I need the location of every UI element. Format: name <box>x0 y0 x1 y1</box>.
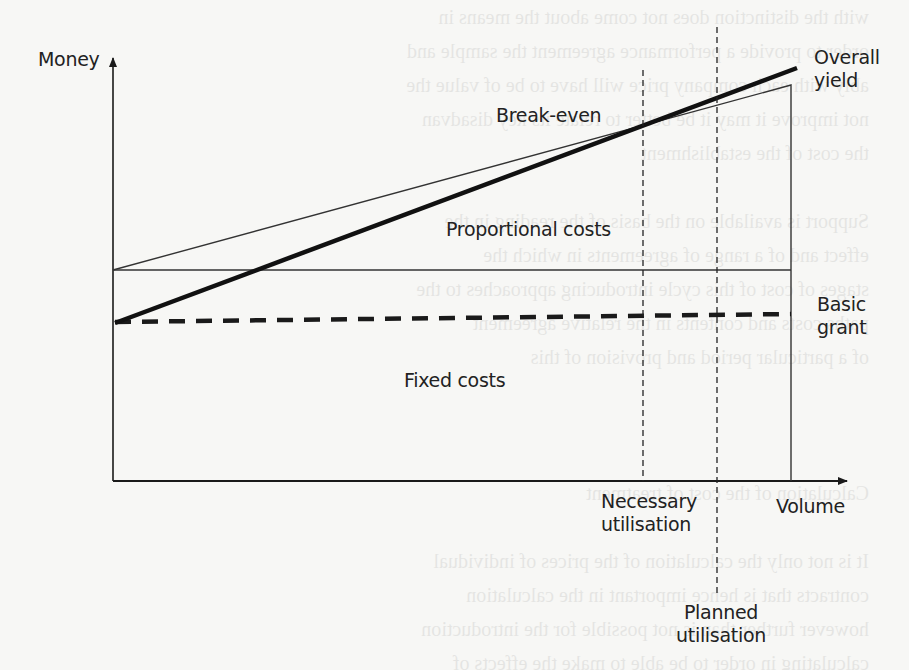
break-even-diagram <box>0 0 909 670</box>
overall-yield-line <box>115 68 797 323</box>
proportional-costs-label: Proportional costs <box>446 218 611 241</box>
necessary-utilisation-label-line2: utilisation <box>601 513 697 536</box>
planned-utilisation-label: Planned utilisation <box>676 601 766 647</box>
fixed-costs-label: Fixed costs <box>404 369 505 392</box>
necessary-utilisation-label-line1: Necessary <box>601 490 697 513</box>
overall-yield-label-line1: Overall <box>814 46 880 69</box>
overall-yield-label: Overall yield <box>814 46 880 92</box>
basic-grant-label-line1: Basic <box>817 293 867 316</box>
basic-grant-label-line2: grant <box>817 316 867 339</box>
planned-utilisation-label-line2: utilisation <box>676 624 766 647</box>
y-axis-label: Money <box>38 48 100 71</box>
planned-utilisation-label-line1: Planned <box>676 601 766 624</box>
total-costs-line <box>113 85 791 481</box>
basic-grant-label: Basic grant <box>817 293 867 339</box>
necessary-utilisation-label: Necessary utilisation <box>601 490 697 536</box>
x-axis-label: Volume <box>776 495 845 518</box>
break-even-label: Break-even <box>496 104 601 127</box>
basic-grant-line <box>115 314 791 322</box>
overall-yield-label-line2: yield <box>814 69 880 92</box>
